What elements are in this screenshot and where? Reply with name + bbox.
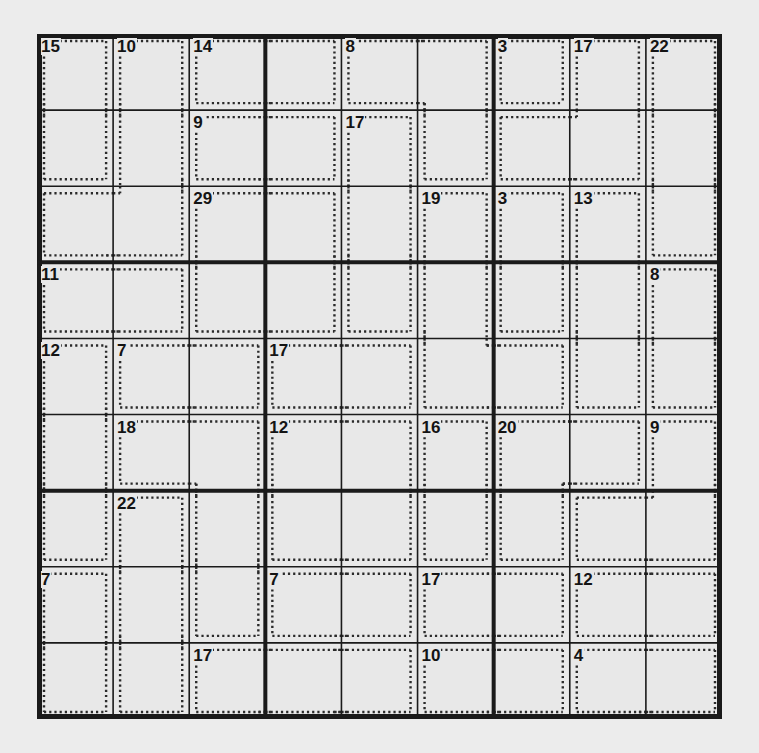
cage-sum-label: 15: [41, 38, 61, 55]
cage-sum-label: 7: [269, 571, 279, 588]
cage-sum-label: 22: [117, 495, 137, 512]
cage-sum-label: 17: [193, 647, 213, 664]
cage-sum-label: 4: [574, 647, 584, 664]
cage-sum-label: 22: [650, 38, 670, 55]
cage-sum-label: 10: [117, 38, 137, 55]
cage-sum-label: 17: [269, 342, 289, 359]
cage-sum-label: 12: [269, 419, 289, 436]
cage-sum-label: 8: [650, 266, 660, 283]
killer-sudoku-grid: 1510148317229172919313118127171812162092…: [37, 34, 722, 719]
cage-sum-label: 8: [345, 38, 355, 55]
cage-sum-label: 13: [574, 190, 594, 207]
cage-sum-label: 17: [345, 114, 365, 131]
cage-sum-label: 17: [574, 38, 594, 55]
cage-sum-label: 17: [422, 571, 442, 588]
cage-sum-label: 20: [498, 419, 518, 436]
cage-sum-label: 10: [422, 647, 442, 664]
cage-sum-label: 7: [41, 571, 51, 588]
grid-lines: [37, 34, 722, 719]
cage-sum-label: 19: [422, 190, 442, 207]
cage-sum-label: 7: [117, 342, 127, 359]
cage-sum-label: 14: [193, 38, 213, 55]
cage-sum-label: 11: [41, 266, 60, 283]
cage-sum-label: 29: [193, 190, 213, 207]
cage-sum-label: 18: [117, 419, 137, 436]
cage-sum-label: 3: [498, 38, 508, 55]
cage-sum-label: 12: [41, 342, 61, 359]
cage-sum-label: 3: [498, 190, 508, 207]
cage-sum-label: 9: [650, 419, 660, 436]
cage-sum-label: 9: [193, 114, 203, 131]
cage-sum-label: 12: [574, 571, 594, 588]
cage-sum-label: 16: [422, 419, 442, 436]
